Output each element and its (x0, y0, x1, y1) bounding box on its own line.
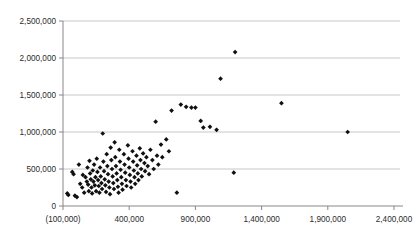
data-point (109, 158, 114, 163)
data-point (155, 153, 160, 158)
data-point (80, 185, 85, 190)
data-point (100, 187, 105, 192)
data-point (78, 181, 83, 186)
data-point (124, 178, 129, 183)
data-points-group (65, 50, 350, 200)
data-point (144, 155, 149, 160)
x-tick-label: 1,400,000 (243, 215, 280, 224)
data-point (113, 155, 118, 160)
data-point (145, 164, 150, 169)
data-point (82, 190, 87, 195)
data-point (147, 172, 152, 177)
y-tick-labels-group: 0500,0001,000,0001,500,0002,000,0002,500… (20, 17, 57, 211)
data-point (345, 130, 350, 135)
data-point (136, 178, 141, 183)
data-point (104, 190, 109, 195)
data-point (160, 155, 165, 160)
data-point (233, 50, 238, 55)
data-point (120, 187, 125, 192)
data-point (111, 181, 116, 186)
data-point (143, 169, 148, 174)
data-point (106, 179, 111, 184)
data-point (95, 170, 100, 175)
data-point (103, 183, 108, 188)
data-point (139, 174, 144, 179)
data-point (201, 125, 206, 130)
data-point (107, 185, 112, 190)
data-point (208, 124, 213, 129)
y-tick-label: 0 (51, 202, 56, 211)
data-point (104, 152, 109, 157)
data-point (193, 105, 198, 110)
data-point (129, 185, 134, 190)
x-tick-label: (100,000) (45, 215, 80, 224)
data-point (126, 143, 131, 148)
data-point (279, 101, 284, 106)
data-point (120, 181, 125, 186)
x-tick-labels-group: (100,000)400,000900,0001,400,0001,900,00… (45, 215, 412, 224)
data-point (102, 177, 107, 182)
y-tick-label: 2,500,000 (20, 17, 57, 26)
data-point (141, 151, 146, 156)
data-point (98, 174, 103, 179)
y-tick-label: 1,000,000 (20, 128, 57, 137)
data-point (114, 171, 119, 176)
y-tick-label: 1,500,000 (20, 91, 57, 100)
data-point (105, 164, 110, 169)
data-point (126, 156, 131, 161)
data-point (117, 147, 122, 152)
data-point (132, 175, 137, 180)
data-point (169, 108, 174, 113)
data-point (115, 178, 120, 183)
data-point (142, 161, 147, 166)
data-point (122, 162, 127, 167)
data-point (175, 190, 180, 195)
data-point (198, 119, 203, 124)
data-point (178, 102, 183, 107)
data-point (214, 127, 219, 132)
data-point (108, 145, 113, 150)
x-tick-label: 2,400,000 (376, 215, 413, 224)
data-point (164, 137, 169, 142)
data-point (137, 146, 142, 151)
data-point (167, 149, 172, 154)
data-point (108, 192, 113, 197)
data-point (112, 140, 117, 145)
data-point (112, 187, 117, 192)
data-point (153, 119, 158, 124)
data-point (119, 175, 124, 180)
y-tick-label: 500,000 (26, 165, 56, 174)
x-tick-label: 1,900,000 (310, 215, 347, 224)
data-point (101, 159, 106, 164)
x-axis (63, 206, 403, 210)
data-point (218, 76, 223, 81)
data-point (139, 167, 144, 172)
data-point (130, 149, 135, 154)
data-point (102, 169, 107, 174)
data-point (114, 164, 119, 169)
data-point (128, 173, 133, 178)
x-tick-label: 900,000 (181, 215, 211, 224)
data-point (150, 158, 155, 163)
data-point (116, 190, 121, 195)
data-point (110, 174, 115, 179)
data-point (106, 172, 111, 177)
data-point (148, 147, 153, 152)
data-point (134, 153, 139, 158)
data-point (77, 162, 82, 167)
data-point (131, 159, 136, 164)
data-point (231, 170, 236, 175)
data-point (184, 104, 189, 109)
chart-canvas: 0500,0001,000,0001,500,0002,000,0002,500… (0, 0, 420, 247)
data-point (123, 170, 128, 175)
data-point (151, 167, 156, 172)
data-point (138, 158, 143, 163)
y-axis (59, 21, 63, 206)
data-point (110, 167, 115, 172)
data-point (92, 162, 97, 167)
x-tick-label: 400,000 (114, 215, 144, 224)
data-point (159, 142, 164, 147)
data-point (124, 184, 129, 189)
gridlines-group (63, 21, 400, 169)
data-point (87, 159, 92, 164)
